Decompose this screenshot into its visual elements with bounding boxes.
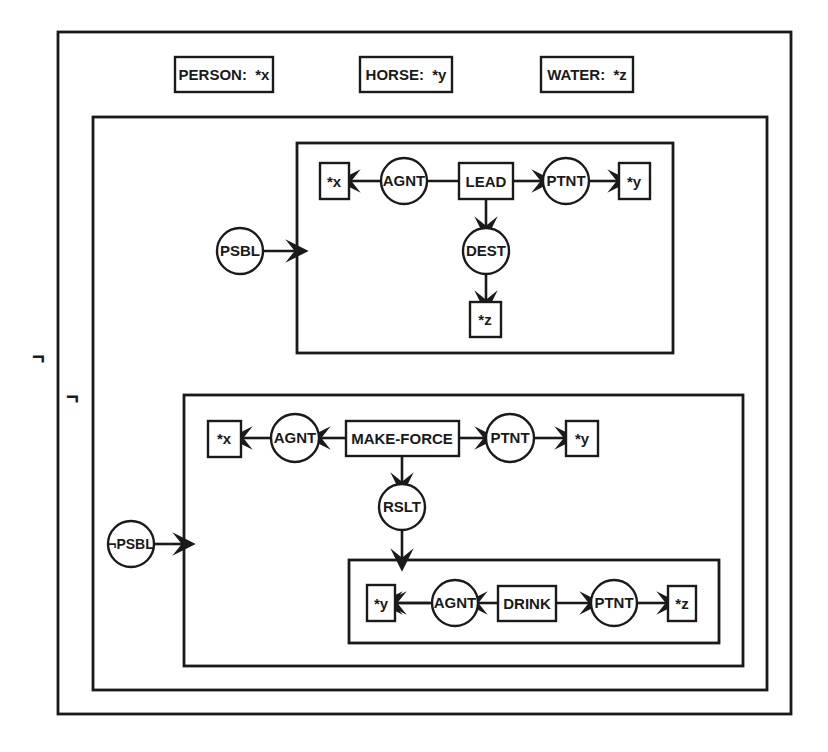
type-water-label: WATER: *z bbox=[547, 66, 627, 83]
svg-text:DRINK: DRINK bbox=[503, 595, 551, 612]
conceptual-graph: ¬ PERSON: *x HORSE: *y WATER: *z ¬ PSBL … bbox=[0, 0, 828, 752]
concept-make-force: MAKE-FORCE bbox=[346, 421, 459, 456]
svg-text:LEAD: LEAD bbox=[466, 173, 507, 190]
relation-agnt-upper: AGNT bbox=[381, 158, 427, 204]
relation-agnt-drink: AGNT bbox=[432, 580, 478, 626]
type-water: WATER: *z bbox=[541, 57, 633, 92]
svg-text:*y: *y bbox=[374, 595, 389, 612]
neg-psbl-label: ¬PSBL bbox=[108, 536, 154, 552]
concept-lead: LEAD bbox=[459, 163, 513, 199]
concept-x-upper: *x bbox=[320, 163, 349, 199]
type-horse-label: HORSE: *y bbox=[366, 66, 448, 83]
relation-dest: DEST bbox=[463, 228, 509, 274]
svg-text:*z: *z bbox=[478, 311, 491, 328]
svg-text:*y: *y bbox=[627, 173, 642, 190]
svg-text:*y: *y bbox=[575, 430, 590, 447]
type-person: PERSON: *x bbox=[175, 57, 273, 92]
type-horse: HORSE: *y bbox=[360, 57, 452, 92]
concept-x-lower: *x bbox=[208, 421, 241, 457]
svg-text:AGNT: AGNT bbox=[383, 172, 426, 189]
psbl-label: PSBL bbox=[220, 242, 260, 259]
svg-text:*x: *x bbox=[327, 173, 342, 190]
outer-negation-symbol: ¬ bbox=[32, 344, 45, 369]
svg-text:AGNT: AGNT bbox=[274, 429, 317, 446]
concept-y-lower: *y bbox=[566, 421, 598, 456]
neg-psbl-relation: ¬PSBL bbox=[108, 521, 154, 567]
svg-text:PTNT: PTNT bbox=[594, 594, 633, 611]
inner-negation-symbol: ¬ bbox=[66, 384, 79, 409]
concept-y-upper: *y bbox=[619, 163, 650, 199]
relation-ptnt-drink: PTNT bbox=[591, 580, 637, 626]
relation-rslt: RSLT bbox=[379, 484, 425, 530]
svg-text:DEST: DEST bbox=[466, 242, 506, 259]
relation-agnt-lower: AGNT bbox=[271, 414, 319, 462]
svg-text:PTNT: PTNT bbox=[546, 172, 585, 189]
svg-text:MAKE-FORCE: MAKE-FORCE bbox=[351, 430, 453, 447]
svg-text:PTNT: PTNT bbox=[490, 429, 529, 446]
concept-y-drink: *y bbox=[367, 585, 395, 621]
concept-z-upper: *z bbox=[470, 302, 501, 337]
concept-drink: DRINK bbox=[498, 586, 556, 621]
svg-text:RSLT: RSLT bbox=[383, 498, 421, 515]
concept-z-drink: *z bbox=[668, 586, 696, 621]
relation-ptnt-upper: PTNT bbox=[543, 158, 589, 204]
svg-text:*z: *z bbox=[675, 595, 688, 612]
svg-text:*x: *x bbox=[217, 430, 232, 447]
psbl-relation: PSBL bbox=[217, 228, 263, 274]
relation-ptnt-lower: PTNT bbox=[486, 414, 534, 462]
svg-text:AGNT: AGNT bbox=[434, 594, 477, 611]
type-person-label: PERSON: *x bbox=[179, 66, 271, 83]
